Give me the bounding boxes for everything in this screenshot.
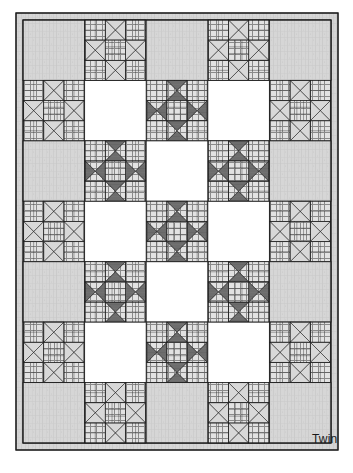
plain-textured-square <box>269 20 331 80</box>
quilt-body <box>16 13 338 450</box>
light-center-nine-patch <box>105 403 125 423</box>
dark-star-block <box>208 262 268 322</box>
quilt-row <box>23 262 331 322</box>
plain-white-square <box>146 262 208 322</box>
light-center-nine-patch <box>290 221 310 241</box>
plain-white-square <box>208 322 270 382</box>
light-star-block <box>270 201 330 261</box>
dark-star-block <box>147 80 207 140</box>
plain-white-square <box>85 201 147 261</box>
quilt-row <box>24 80 331 140</box>
quilt-row <box>24 201 331 261</box>
light-center-nine-patch <box>44 101 64 121</box>
plain-white-square <box>85 322 147 382</box>
quilt-row <box>24 322 331 382</box>
light-star-block <box>24 201 84 261</box>
plain-textured-square <box>23 141 85 201</box>
plain-white-square <box>208 80 270 140</box>
dark-star-block <box>85 141 145 201</box>
star-center-nine-patch <box>229 282 249 302</box>
light-center-nine-patch <box>105 40 125 60</box>
light-star-block <box>85 383 145 443</box>
light-star-block <box>270 322 330 382</box>
dark-star-block <box>208 141 268 201</box>
plain-textured-square <box>23 262 85 322</box>
plain-textured-square <box>23 20 85 80</box>
star-center-nine-patch <box>167 101 187 121</box>
quilt-row <box>23 20 331 80</box>
light-center-nine-patch <box>229 40 249 60</box>
plain-white-square <box>208 201 270 261</box>
light-star-block <box>24 322 84 382</box>
plain-white-square <box>146 141 208 201</box>
star-center-nine-patch <box>229 161 249 181</box>
quilt-diagram: Twin <box>0 0 353 473</box>
plain-textured-square <box>269 141 331 201</box>
star-center-nine-patch <box>105 282 125 302</box>
plain-textured-square <box>269 262 331 322</box>
size-label: Twin <box>312 432 337 446</box>
dark-star-block <box>147 322 207 382</box>
plain-textured-square <box>23 383 85 443</box>
quilt-illustration <box>0 0 353 473</box>
light-star-block <box>24 80 84 140</box>
plain-white-square <box>85 80 147 140</box>
light-center-nine-patch <box>229 403 249 423</box>
light-center-nine-patch <box>290 101 310 121</box>
light-star-block <box>270 80 330 140</box>
plain-textured-square <box>146 20 208 80</box>
light-star-block <box>208 20 268 80</box>
light-center-nine-patch <box>290 342 310 362</box>
star-center-nine-patch <box>167 342 187 362</box>
light-star-block <box>208 383 268 443</box>
light-center-nine-patch <box>44 221 64 241</box>
dark-star-block <box>147 201 207 261</box>
quilt-row <box>23 141 331 201</box>
star-center-nine-patch <box>105 161 125 181</box>
light-center-nine-patch <box>44 342 64 362</box>
light-star-block <box>85 20 145 80</box>
star-center-nine-patch <box>167 221 187 241</box>
dark-star-block <box>85 262 145 322</box>
quilt-row <box>23 383 331 443</box>
plain-textured-square <box>146 383 208 443</box>
